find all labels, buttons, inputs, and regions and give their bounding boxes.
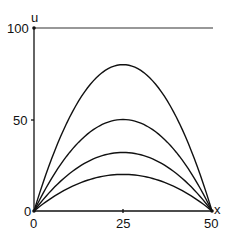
curve-2: [34, 120, 212, 212]
x-axis-label: x: [214, 202, 221, 217]
y-tick-label-50: 50: [13, 113, 27, 128]
curve-3: [34, 152, 212, 211]
curves-group: [34, 65, 212, 211]
y-axis-label: u: [31, 10, 38, 25]
curve-1: [34, 65, 212, 211]
x-tick-label-0: 0: [30, 216, 37, 231]
x-tick-label-50: 50: [204, 216, 218, 231]
chart: u x 100 50 0 0 25 50: [0, 0, 235, 242]
curve-4: [34, 174, 212, 211]
x-tick-label-25: 25: [116, 216, 130, 231]
top-dot: [32, 26, 36, 30]
y-tick-label-100: 100: [7, 21, 29, 36]
